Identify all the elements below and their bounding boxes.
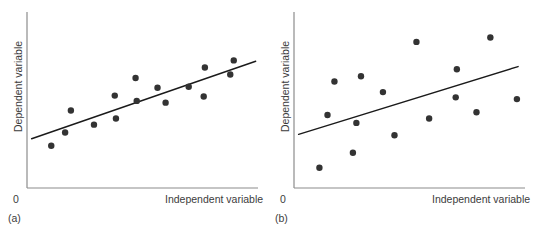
panel-b-x-axis-label: Independent variable bbox=[432, 193, 530, 205]
data-point bbox=[358, 73, 364, 79]
panel-a-caption: (a) bbox=[8, 212, 21, 224]
panel-b-data-points bbox=[316, 34, 520, 171]
data-point bbox=[331, 78, 337, 84]
panel-a-data-points bbox=[48, 57, 237, 149]
panel-a-trendline-group bbox=[32, 61, 256, 138]
data-point bbox=[473, 109, 479, 115]
data-point bbox=[231, 57, 237, 63]
data-point bbox=[91, 121, 97, 127]
data-point bbox=[162, 99, 168, 105]
data-point bbox=[113, 115, 119, 121]
data-point bbox=[350, 150, 356, 156]
panel-b: Dependent variable Independent variable … bbox=[267, 0, 534, 232]
data-point bbox=[454, 66, 460, 72]
data-point bbox=[186, 84, 192, 90]
panel-a: Dependent variable Independent variable … bbox=[0, 0, 267, 232]
trendline bbox=[299, 67, 518, 135]
data-point bbox=[353, 120, 359, 126]
data-point bbox=[134, 98, 140, 104]
panel-b-origin-label: 0 bbox=[280, 193, 286, 205]
data-point bbox=[154, 84, 160, 90]
data-point bbox=[453, 94, 459, 100]
scatter-plot-figure: Dependent variable Independent variable … bbox=[0, 0, 534, 232]
panel-b-caption: (b) bbox=[275, 212, 288, 224]
panel-a-y-axis-label: Dependent variable bbox=[4, 0, 16, 8]
data-point bbox=[514, 96, 520, 102]
data-point bbox=[48, 143, 54, 149]
trendline bbox=[32, 61, 256, 138]
data-point bbox=[391, 132, 397, 138]
data-point bbox=[380, 89, 386, 95]
data-point bbox=[324, 112, 330, 118]
data-point bbox=[132, 75, 138, 81]
data-point bbox=[112, 92, 118, 98]
panel-a-x-axis-label: Independent variable bbox=[165, 193, 263, 205]
data-point bbox=[202, 64, 208, 70]
data-point bbox=[68, 107, 74, 113]
data-point bbox=[487, 34, 493, 40]
data-point bbox=[201, 93, 207, 99]
data-point bbox=[62, 129, 68, 135]
panel-a-origin-label: 0 bbox=[13, 193, 19, 205]
data-point bbox=[227, 71, 233, 77]
panel-b-y-axis-label: Dependent variable bbox=[271, 0, 283, 8]
data-point bbox=[316, 165, 322, 171]
data-point bbox=[413, 39, 419, 45]
data-point bbox=[426, 115, 432, 121]
panel-b-trendline-group bbox=[299, 67, 518, 135]
